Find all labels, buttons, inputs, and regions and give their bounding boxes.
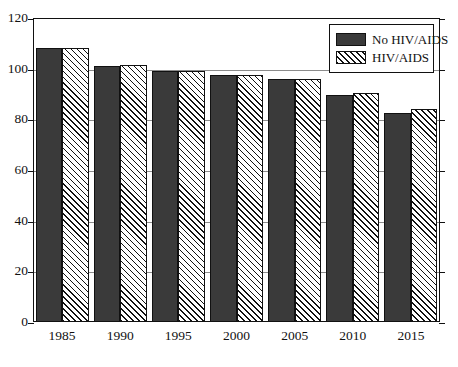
bar	[178, 71, 205, 322]
legend-item-hiv-aids: HIV/AIDS	[336, 49, 427, 66]
y-axis-tick-label: 40	[2, 214, 28, 228]
bar	[295, 79, 322, 322]
x-axis-tick-label: 2010	[339, 328, 366, 344]
legend-swatch-solid-icon	[336, 33, 366, 46]
legend-label-no-hiv-aids: No HIV/AIDS	[372, 33, 448, 46]
bar-chart-figure: 020406080100120 198519901995200020052010…	[0, 0, 458, 367]
bar	[94, 66, 121, 322]
legend-item-no-hiv-aids: No HIV/AIDS	[336, 31, 427, 48]
x-axis-labels: 1985199019952000200520102015	[33, 328, 440, 352]
chart-legend: No HIV/AIDS HIV/AIDS	[329, 24, 434, 73]
x-axis-tick-label: 2005	[281, 328, 308, 344]
bar-group	[210, 18, 263, 322]
bar	[152, 71, 179, 322]
bar-group	[36, 18, 89, 322]
x-axis-tick-label: 1995	[165, 328, 192, 344]
bar	[326, 95, 353, 322]
legend-label-hiv-aids: HIV/AIDS	[372, 51, 429, 64]
legend-swatch-hatch-icon	[336, 51, 366, 64]
y-axis-tick-label: 0	[2, 315, 28, 329]
y-axis-tick-label: 20	[2, 265, 28, 279]
bar-group	[152, 18, 205, 322]
x-axis-tick-label: 1985	[49, 328, 76, 344]
x-axis-tick-label: 1990	[107, 328, 134, 344]
bar	[62, 48, 89, 322]
y-axis-tick-label: 120	[2, 11, 28, 25]
bar-group	[94, 18, 147, 322]
y-axis-tick-label: 80	[2, 113, 28, 127]
x-axis-tick-label: 2000	[223, 328, 250, 344]
bar	[237, 75, 264, 322]
bar	[411, 109, 438, 322]
bar-group	[268, 18, 321, 322]
bar	[384, 113, 411, 322]
bar	[120, 65, 147, 322]
y-axis-tick-label: 60	[2, 163, 28, 177]
y-axis-labels: 020406080100120	[0, 18, 28, 322]
bar	[210, 75, 237, 322]
y-axis-tick	[439, 323, 445, 324]
x-axis-tick-label: 2015	[397, 328, 424, 344]
bar	[353, 93, 380, 322]
bar	[268, 79, 295, 322]
y-axis-tick	[28, 323, 34, 324]
y-axis-tick-label: 100	[2, 62, 28, 76]
bar	[36, 48, 63, 322]
